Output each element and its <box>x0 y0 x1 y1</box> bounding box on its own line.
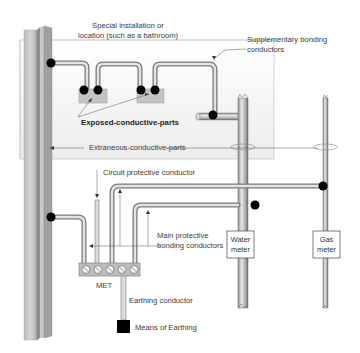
met-block <box>79 263 140 276</box>
means-of-earthing-label: Means of Earthing <box>135 323 197 332</box>
water-pipe <box>238 94 248 308</box>
circuit-protective-conductor <box>95 200 99 264</box>
main-bonding-label-1: Main protective <box>157 231 209 240</box>
special-location-label-1: Special installation or <box>92 21 164 30</box>
supplementary-bonding-label-1: Supplementary bonding <box>247 35 327 44</box>
gas-pipe <box>323 95 328 308</box>
water-meter-label-1: Water <box>231 235 251 244</box>
gas-meter: Gas meter <box>313 231 340 258</box>
bonding-diagram: Water meter Gas meter <box>0 0 360 353</box>
steel-beam <box>24 26 52 340</box>
met-label: MET <box>96 281 112 290</box>
cpc-label: Circuit protective conductor <box>103 168 195 177</box>
gas-meter-label-2: meter <box>317 245 336 254</box>
earthing-conductor-label: Earthing conductor <box>129 296 193 305</box>
water-meter: Water meter <box>227 231 254 258</box>
special-location-label-2: location (such as a bathroom) <box>78 31 179 40</box>
supplementary-bonding-label-2: conductors <box>247 45 284 54</box>
diagram-canvas: Water meter Gas meter <box>0 0 360 353</box>
main-bonding-conductors <box>51 186 323 264</box>
extraneous-parts-label: Extraneous-conductive-parts <box>89 143 186 152</box>
earth-electrode-block <box>117 320 130 333</box>
main-bonding-label-2: bonding conductors <box>157 241 223 250</box>
gas-meter-label-1: Gas <box>320 235 334 244</box>
exposed-parts-label: Exposed-conductive-parts <box>81 118 180 127</box>
earthing-conductor <box>121 275 126 320</box>
water-meter-label-2: meter <box>231 245 250 254</box>
